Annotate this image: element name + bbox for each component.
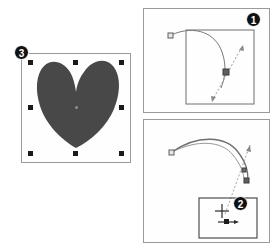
resize-handle-se[interactable] (119, 151, 124, 156)
resize-handle-ne[interactable] (119, 60, 124, 65)
resize-handle-n[interactable] (73, 60, 78, 65)
resize-handle-e[interactable] (119, 105, 124, 110)
figure-root: 1 2 3 (0, 0, 280, 250)
resize-handle-sw[interactable] (28, 151, 33, 156)
step-badge-3: 3 (14, 45, 29, 60)
resize-handle-w[interactable] (28, 105, 33, 110)
resize-handle-s[interactable] (73, 151, 78, 156)
resize-handle-nw[interactable] (28, 60, 33, 65)
reshape-cursor-panel (143, 119, 270, 243)
step-badge-1: 1 (246, 12, 261, 27)
shape-center-marker (75, 106, 78, 109)
step-badge-2: 2 (233, 196, 248, 211)
